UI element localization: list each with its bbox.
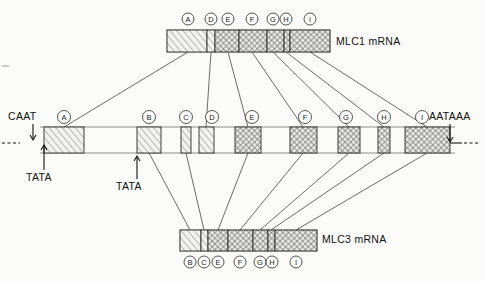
mlc3-exon-b <box>180 230 201 251</box>
gene-exon-b <box>137 127 161 153</box>
gene-exon-h <box>378 127 390 153</box>
gene-exons <box>44 127 450 153</box>
mlc1-exon-g <box>267 30 284 52</box>
mlc1-exon-i <box>290 30 330 52</box>
mlc1-exon-a <box>167 30 207 52</box>
gene-label-g: G <box>343 113 349 122</box>
mlc1-mrna-bar <box>167 30 330 52</box>
mlc3-exon-g <box>253 230 268 251</box>
mlc1-exon-d <box>207 30 215 52</box>
gene-exon-f <box>290 127 317 153</box>
gene-label-d: D <box>209 113 215 122</box>
mlc3-exon-i <box>275 230 317 251</box>
gene-exon-labels: A B C D E F G H I <box>58 111 429 124</box>
gene-label-h: H <box>381 113 386 122</box>
mlc1-label-g: G <box>270 15 276 24</box>
mlc1-mrna-title: MLC1 mRNA <box>336 35 401 47</box>
mlc1-exon-e <box>215 30 239 52</box>
mlc3-mrna-title: MLC3 mRNA <box>322 233 387 245</box>
gene-exon-d <box>199 127 214 153</box>
gene-exon-c <box>181 127 191 153</box>
mlc3-exon-c <box>201 230 208 251</box>
gene-label-c: C <box>183 113 189 122</box>
diagram-canvas: A D E F G H I MLC1 mRNA <box>0 0 485 281</box>
gene-exon-g <box>338 127 360 153</box>
gene-label-f: F <box>303 113 308 122</box>
gene-label-b: B <box>146 113 151 122</box>
gene-label-a: A <box>61 113 66 122</box>
splicing-diagram: A D E F G H I MLC1 mRNA <box>0 0 485 281</box>
tata2-label: TATA <box>116 180 142 192</box>
mlc3-exon-labels: B C E F G H I <box>184 256 302 268</box>
mlc1-label-h: H <box>283 15 288 24</box>
gene-exon-e <box>235 127 261 153</box>
aataaa-label: AATAAA <box>429 110 471 122</box>
gene-exon-i <box>405 127 450 153</box>
mlc1-label-e: E <box>225 15 230 24</box>
mlc1-label-i: I <box>309 15 311 24</box>
mlc3-exon-f <box>228 230 253 251</box>
mlc3-label-c: C <box>201 258 207 267</box>
mlc3-mrna-bar <box>180 230 317 251</box>
mlc1-exon-h <box>284 30 290 52</box>
gene-exon-a <box>44 127 84 153</box>
gene-label-e: E <box>249 113 254 122</box>
caat-annotation: CAAT <box>8 110 37 140</box>
mlc1-exon-labels: A D E F G H I <box>182 13 316 25</box>
mlc3-label-i: I <box>295 258 297 267</box>
mlc3-exon-e <box>208 230 228 251</box>
mlc1-label-f: F <box>250 15 255 24</box>
mlc3-exon-h <box>268 230 275 251</box>
mlc3-label-f: F <box>238 258 243 267</box>
mlc1-label-d: D <box>208 15 214 24</box>
connector-lines-bottom <box>149 153 427 230</box>
mlc3-label-b: B <box>187 258 192 267</box>
gene-label-i: I <box>421 113 423 122</box>
tata1-label: TATA <box>26 171 52 183</box>
mlc3-label-e: E <box>215 258 220 267</box>
tata2-annotation: TATA <box>116 156 142 192</box>
mlc1-exon-f <box>239 30 267 52</box>
caat-label: CAAT <box>8 110 37 122</box>
mlc3-label-g: G <box>257 258 263 267</box>
mlc1-label-a: A <box>185 15 190 24</box>
mlc3-label-h: H <box>269 258 274 267</box>
